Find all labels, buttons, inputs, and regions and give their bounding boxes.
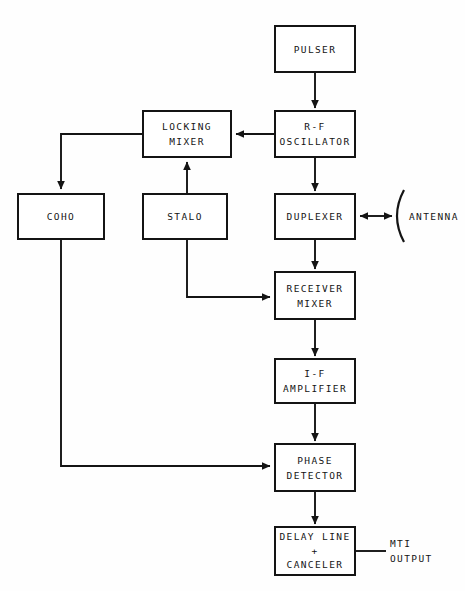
- block-delay-line-canceler-line-2: +: [311, 544, 318, 558]
- antenna-arc-icon: [397, 190, 404, 242]
- block-if-amplifier[interactable]: I-F AMPLIFIER: [274, 358, 356, 404]
- block-coho-line-1: COHO: [47, 209, 75, 224]
- connector-lines-layer: [0, 0, 465, 591]
- block-receiver-mixer[interactable]: RECEIVER MIXER: [274, 271, 356, 320]
- wire-stalo-to-receiver-mixer: [187, 240, 270, 297]
- block-phase-detector-line-1: PHASE: [297, 453, 333, 468]
- block-pulser[interactable]: PULSER: [274, 25, 356, 73]
- block-rf-oscillator-line-1: R-F: [304, 119, 325, 134]
- block-rf-oscillator-line-2: OSCILLATOR: [279, 134, 350, 149]
- block-receiver-mixer-line-1: RECEIVER: [287, 281, 344, 296]
- block-delay-line-canceler-line-3: CANCELER: [287, 558, 344, 572]
- block-pulser-line-1: PULSER: [294, 42, 337, 57]
- antenna-label: ANTENNA: [409, 209, 459, 224]
- block-locking-mixer-line-1: LOCKING: [162, 119, 212, 134]
- block-locking-mixer-line-2: MIXER: [169, 134, 205, 149]
- block-phase-detector[interactable]: PHASE DETECTOR: [274, 443, 356, 492]
- block-phase-detector-line-2: DETECTOR: [287, 468, 344, 483]
- block-receiver-mixer-line-2: MIXER: [297, 296, 333, 311]
- mti-output-label-line-1: MTI: [390, 536, 411, 551]
- block-locking-mixer[interactable]: LOCKING MIXER: [142, 110, 232, 158]
- block-if-amplifier-line-1: I-F: [304, 366, 325, 381]
- block-duplexer[interactable]: DUPLEXER: [274, 193, 356, 240]
- block-if-amplifier-line-2: AMPLIFIER: [283, 381, 347, 396]
- wire-coho-to-phase-detector: [61, 240, 270, 466]
- mti-output-label-line-2: OUTPUT: [390, 551, 433, 566]
- block-delay-line-canceler-line-1: DELAY LINE: [279, 530, 350, 544]
- wire-locking-mixer-to-coho: [61, 134, 142, 189]
- block-rf-oscillator[interactable]: R-F OSCILLATOR: [274, 110, 356, 158]
- block-coho[interactable]: COHO: [17, 193, 105, 240]
- mti-radar-block-diagram: PULSER R-F OSCILLATOR LOCKING MIXER COHO…: [0, 0, 465, 591]
- block-stalo-line-1: STALO: [167, 209, 203, 224]
- block-delay-line-canceler[interactable]: DELAY LINE + CANCELER: [274, 526, 356, 576]
- block-duplexer-line-1: DUPLEXER: [287, 209, 344, 224]
- block-stalo[interactable]: STALO: [142, 193, 228, 240]
